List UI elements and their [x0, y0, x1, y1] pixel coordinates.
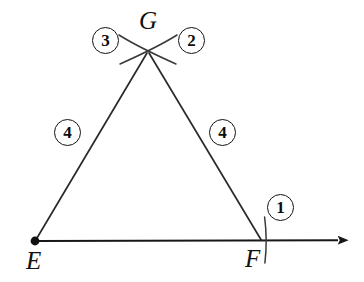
segment-eg [36, 53, 148, 241]
step-label-4-left-text: 4 [63, 124, 72, 141]
point-label-f: F [245, 246, 260, 271]
step-label-3-text: 3 [101, 32, 110, 49]
construction-arc-left-at-g [119, 35, 176, 64]
step-label-1: 1 [267, 194, 294, 221]
step-label-2: 2 [178, 27, 205, 54]
point-label-e: E [26, 248, 41, 273]
geometry-figure-canvas: G E F 3 2 4 4 1 [0, 0, 364, 282]
step-label-4-right-text: 4 [218, 124, 227, 141]
ray-ef [35, 240, 338, 241]
point-marker-e [31, 237, 40, 246]
step-label-4-left: 4 [54, 119, 81, 146]
segment-fg [149, 53, 262, 241]
step-label-4-right: 4 [209, 119, 236, 146]
construction-arc-right-at-g [120, 35, 177, 64]
step-label-3: 3 [92, 27, 119, 54]
step-label-2-text: 2 [187, 32, 196, 49]
point-label-g: G [139, 8, 157, 33]
step-label-1-text: 1 [276, 199, 285, 216]
